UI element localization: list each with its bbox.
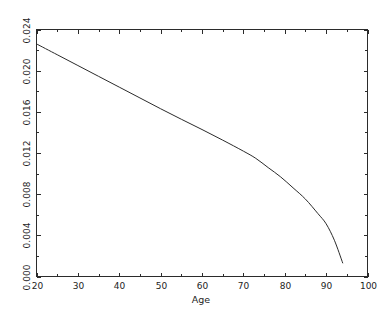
y-tick-label: 0.008 <box>22 181 32 207</box>
y-tick-label: 0.004 <box>22 222 32 248</box>
x-tick-label: 20 <box>32 281 44 291</box>
y-tick-label: 0.024 <box>22 17 32 43</box>
x-tick-label: 100 <box>360 281 377 291</box>
x-tick-label: 30 <box>73 281 85 291</box>
x-tick-label: 70 <box>238 281 250 291</box>
x-tick-label: 50 <box>156 281 168 291</box>
y-tick-label: 0.000 <box>22 264 32 290</box>
x-tick-label: 40 <box>114 281 126 291</box>
y-tick-label: 0.012 <box>22 141 32 167</box>
chart-container: 2030405060708090100 0.0000.0040.0080.012… <box>0 0 390 317</box>
line-chart-plot: 2030405060708090100 0.0000.0040.0080.012… <box>0 0 390 317</box>
y-tick-label: 0.020 <box>22 58 32 84</box>
x-tick-label: 60 <box>197 281 209 291</box>
y-tick-label: 0.016 <box>22 99 32 125</box>
x-axis-title: Age <box>192 294 211 305</box>
x-tick-label: 80 <box>280 281 292 291</box>
chart-background <box>0 0 390 317</box>
x-tick-label: 90 <box>321 281 333 291</box>
x-axis-tick-labels: 2030405060708090100 <box>32 281 378 291</box>
